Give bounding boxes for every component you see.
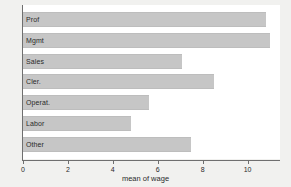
x-tick-mark — [158, 160, 159, 164]
bars-layer: ProfMgmtSalesCler.Operat.LaborOther02468… — [0, 0, 291, 187]
bar-other — [23, 137, 191, 152]
bar-category-label: Cler. — [26, 75, 41, 88]
bar-category-label: Labor — [26, 117, 44, 130]
bar-sales — [23, 54, 182, 69]
x-tick-label: 10 — [238, 165, 258, 174]
bar-row: Sales — [23, 54, 279, 69]
bar-category-label: Mgmt — [26, 34, 44, 47]
bar-category-label: Other — [26, 138, 44, 151]
bar-mgmt — [23, 33, 270, 48]
bar-category-label: Sales — [26, 55, 44, 68]
x-tick-mark — [203, 160, 204, 164]
bar-row: Cler. — [23, 74, 279, 89]
bar-category-label: Operat. — [26, 96, 50, 109]
x-tick-mark — [68, 160, 69, 164]
x-axis-title: mean of wage — [0, 174, 291, 184]
x-tick-mark — [113, 160, 114, 164]
bar-cler — [23, 74, 214, 89]
bar-row: Mgmt — [23, 33, 279, 48]
bar-row: Prof — [23, 12, 279, 27]
x-tick-label: 4 — [103, 165, 123, 174]
bar-chart: ProfMgmtSalesCler.Operat.LaborOther02468… — [0, 0, 291, 187]
bar-row: Other — [23, 137, 279, 152]
bar-row: Operat. — [23, 95, 279, 110]
x-tick-label: 8 — [193, 165, 213, 174]
bar-row: Labor — [23, 116, 279, 131]
x-tick-mark — [23, 160, 24, 164]
x-tick-label: 2 — [58, 165, 78, 174]
x-tick-label: 0 — [13, 165, 33, 174]
x-tick-label: 6 — [148, 165, 168, 174]
x-tick-mark — [248, 160, 249, 164]
bar-prof — [23, 12, 266, 27]
bar-category-label: Prof — [26, 13, 39, 26]
